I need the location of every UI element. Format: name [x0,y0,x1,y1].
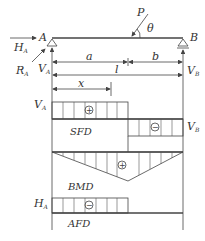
dimension-a-label: a [86,50,93,63]
axial-force-diagram [52,198,183,213]
angle-theta-label: θ [147,22,154,35]
sfd-title: SFD [70,126,92,137]
dimension-b-label: b [152,50,159,63]
bmd-positive-sign: + [119,161,126,170]
sfd-vb-label: VB [187,120,200,133]
sfd-positive-sign: + [86,106,93,115]
afd-negative-sign: − [86,201,93,210]
beam-diagram: P θ A B HA RA VA VB a b l x [0,0,205,241]
reaction-va-label: VA [38,62,51,75]
afd-ha-label: HA [33,197,49,210]
support-a-pin-icon [47,39,57,46]
reaction-vb-label: VB [187,64,200,77]
load-p-label: P [136,6,145,19]
bending-moment-diagram [52,152,183,181]
bmd-title: BMD [67,181,94,192]
support-b-roller-icon [177,39,189,48]
dimension-l-label: l [115,63,119,76]
reaction-ra-label: RA [15,64,29,77]
sfd-va-label: VA [34,98,47,111]
reaction-ha-label: HA [13,41,29,54]
sfd-negative-sign: − [152,123,159,132]
reaction-ra-arrow [32,49,45,62]
afd-title: AFD [67,218,90,229]
support-a-label: A [38,31,47,44]
dimension-x-label: x [78,77,85,90]
support-b-label: B [189,31,198,44]
